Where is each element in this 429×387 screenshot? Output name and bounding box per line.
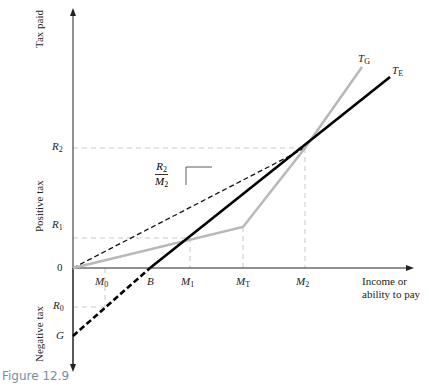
average-rate-line [73, 148, 305, 268]
tick-r1: R1 [52, 218, 63, 232]
tick-mt: MT [236, 275, 250, 289]
tg-curve [73, 67, 362, 268]
x-axis-title-line2: ability to pay [362, 288, 420, 301]
positive-tax-label: Positive tax [33, 180, 45, 232]
tick-m1: M1 [181, 275, 194, 289]
figure-caption: Figure 12.9 [2, 369, 69, 383]
x-axis-title: Income or ability to pay [362, 275, 420, 301]
tick-origin: 0 [57, 261, 63, 273]
tick-g: G [56, 329, 64, 341]
y-axis-title: Tax paid [33, 10, 45, 48]
slope-fraction: R2 M2 [155, 160, 168, 189]
slope-triangle [186, 167, 212, 185]
tick-m0: M0 [95, 275, 108, 289]
slope-numerator: R2 [155, 160, 168, 175]
negative-tax-label: Negative tax [33, 306, 45, 362]
te-label: TE [392, 64, 403, 78]
tick-m2: M2 [296, 275, 309, 289]
tick-r0: R0 [53, 299, 64, 313]
te-negative-segment [73, 268, 150, 336]
tick-r2: R2 [52, 140, 63, 154]
slope-denominator: M2 [155, 175, 168, 187]
tick-b: B [147, 275, 154, 287]
x-axis-title-line1: Income or [362, 275, 420, 288]
tg-label: TG [358, 52, 370, 66]
